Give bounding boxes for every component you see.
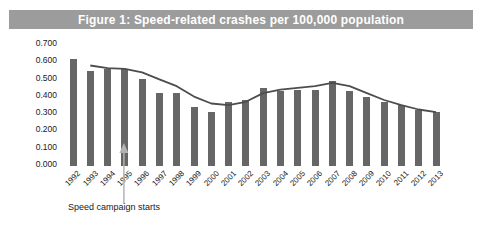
bar-2004 [277, 91, 284, 166]
x-tick-label-2003: 2003 [254, 169, 273, 188]
x-tick-label-2000: 2000 [202, 169, 221, 188]
x-tick-label-2009: 2009 [357, 169, 376, 188]
bar-1994 [104, 69, 111, 166]
x-tick-label-1993: 1993 [81, 169, 100, 188]
x-tick-label-2007: 2007 [323, 169, 342, 188]
bar-1992 [70, 59, 77, 166]
bar-2011 [398, 105, 405, 166]
x-tick-label-2008: 2008 [340, 169, 359, 188]
x-tick-label-2012: 2012 [409, 169, 428, 188]
x-tick-label-2001: 2001 [219, 169, 238, 188]
y-tick-label-0.700: 0.700 [29, 39, 57, 47]
bar-2001 [225, 102, 232, 166]
y-tick-label-0.600: 0.600 [29, 56, 57, 64]
bar-2003 [260, 88, 267, 166]
bar-2012 [415, 110, 422, 166]
annotation-label: Speed campaign starts [68, 202, 160, 212]
bar-2013 [433, 112, 440, 166]
bar-2002 [242, 100, 249, 166]
x-tick-label-2005: 2005 [288, 169, 307, 188]
figure-container: Figure 1: Speed-related crashes per 100,… [0, 0, 487, 229]
bar-1999 [191, 107, 198, 166]
x-tick-label-2013: 2013 [426, 169, 445, 188]
x-tick-label-2002: 2002 [236, 169, 255, 188]
x-tick-label-2004: 2004 [271, 169, 290, 188]
bar-2005 [294, 90, 301, 166]
bar-2009 [363, 97, 370, 166]
x-tick-label-1995: 1995 [115, 169, 134, 188]
bar-2006 [312, 90, 319, 166]
x-tick-label-1999: 1999 [184, 169, 203, 188]
y-tick-label-0.000: 0.000 [29, 160, 57, 168]
x-tick-label-1992: 1992 [63, 169, 82, 188]
bar-1998 [173, 93, 180, 166]
y-tick-label-0.200: 0.200 [29, 125, 57, 133]
bar-2008 [346, 91, 353, 166]
bar-1995 [121, 69, 128, 166]
bar-2010 [381, 102, 388, 166]
bar-2007 [329, 81, 336, 166]
x-tick-label-2010: 2010 [375, 169, 394, 188]
x-tick-label-1998: 1998 [167, 169, 186, 188]
bar-2000 [208, 112, 215, 166]
y-tick-label-0.100: 0.100 [29, 143, 57, 151]
y-tick-label-0.500: 0.500 [29, 74, 57, 82]
bar-1993 [87, 71, 94, 166]
bar-1997 [156, 93, 163, 166]
x-tick-label-1994: 1994 [98, 169, 117, 188]
x-tick-label-1996: 1996 [133, 169, 152, 188]
y-tick-label-0.300: 0.300 [29, 108, 57, 116]
bar-1996 [139, 79, 146, 166]
y-tick-label-0.400: 0.400 [29, 91, 57, 99]
x-tick-label-1997: 1997 [150, 169, 169, 188]
x-tick-label-2006: 2006 [305, 169, 324, 188]
figure-title: Figure 1: Speed-related crashes per 100,… [78, 13, 404, 27]
figure-title-bar: Figure 1: Speed-related crashes per 100,… [9, 10, 473, 29]
x-tick-label-2011: 2011 [392, 169, 411, 188]
